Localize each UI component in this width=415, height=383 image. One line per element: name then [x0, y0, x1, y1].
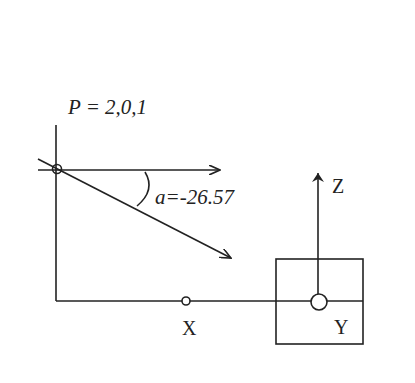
z-axis-label: Z [332, 175, 344, 197]
point-label: P = 2,0,1 [67, 95, 147, 119]
y-axis-circle-marker [311, 294, 327, 310]
angle-label: a=-26.57 [155, 185, 235, 209]
angle-arc [137, 172, 149, 206]
diagram-canvas: P = 2,0,1 a=-26.57 X Y Z [0, 0, 415, 383]
x-axis-label: X [182, 317, 197, 339]
x-axis-point-marker [182, 297, 190, 305]
y-axis-label: Y [334, 316, 348, 338]
